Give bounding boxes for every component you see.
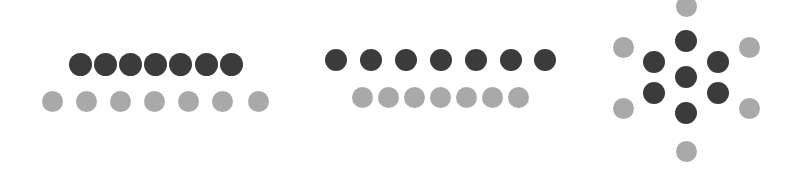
group-right-radial (0, 0, 800, 173)
light-dot (676, 141, 697, 162)
dark-dot (707, 82, 729, 104)
dot-diagram-canvas (0, 0, 800, 173)
light-dot (739, 98, 760, 119)
light-dot (739, 37, 760, 58)
light-dot (613, 98, 634, 119)
dark-dot (675, 30, 697, 52)
light-dot (676, 0, 697, 17)
dark-dot (675, 66, 697, 88)
dark-dot (643, 82, 665, 104)
dark-dot (643, 51, 665, 73)
light-dot (613, 37, 634, 58)
dark-dot (675, 102, 697, 124)
dark-dot (707, 51, 729, 73)
